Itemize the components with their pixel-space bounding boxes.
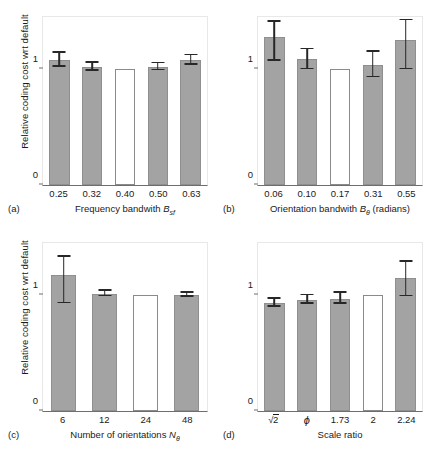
x-axis-label-b: Orientation bandwith Bθ (radians) (255, 203, 425, 216)
y-tick-mark-0 (254, 184, 258, 185)
x-tick-0.32: 0.32 (75, 188, 108, 199)
y-tick-1: 1 (33, 279, 43, 290)
x-tick-√2: √2 (257, 414, 290, 426)
bar-slot (324, 17, 357, 185)
error-bar-0.06 (274, 22, 276, 61)
x-tick-0.40: 0.40 (108, 188, 141, 199)
bar-slot (166, 243, 207, 411)
bar-φ (297, 300, 317, 411)
x-tick-2: 2 (357, 414, 390, 426)
error-cap-top (53, 51, 66, 53)
caption-row-a: (a) Frequency bandwith Bsf (0, 203, 215, 219)
error-cap-bottom (268, 305, 281, 307)
x-tick-0.10: 0.10 (290, 188, 323, 199)
panel-letter-c: (c) (8, 429, 19, 440)
y-tick-mark-1 (254, 294, 258, 295)
bar-slot (43, 17, 76, 185)
bar-12 (92, 294, 117, 411)
x-tick-labels-c: 6122448 (42, 414, 208, 425)
error-cap-top (268, 297, 281, 299)
bar-slot (356, 243, 389, 411)
bar-group-c (43, 243, 207, 411)
x-axis-label-c: Number of orientations Nθ (40, 429, 210, 442)
x-tick-φ: ϕ (290, 414, 323, 426)
plot-area-b: 01 (257, 16, 423, 186)
error-cap-top (151, 62, 164, 64)
y-axis-label-a: Relative coding cost wrt default (19, 2, 30, 162)
error-cap-top (86, 61, 99, 63)
y-tick-mark-0 (39, 184, 43, 185)
x-tick-0.55: 0.55 (390, 188, 423, 199)
error-bar-6 (63, 257, 65, 303)
error-cap-bottom (180, 295, 193, 297)
plot-inner-a: 01 (43, 17, 207, 185)
x-tick-6: 6 (42, 414, 84, 425)
x-tick-0.31: 0.31 (357, 188, 390, 199)
bar-0.25 (49, 60, 69, 185)
error-bar-2.24 (405, 262, 407, 297)
panel-a: Relative coding cost wrt default 01 0.25… (0, 0, 215, 226)
bar-2 (363, 295, 383, 411)
bar-0.50 (148, 67, 168, 185)
bar-24 (133, 295, 158, 411)
bar-slot (389, 243, 422, 411)
caption-row-b: (b) Orientation bandwith Bθ (radians) (215, 203, 430, 219)
caption-row-c: (c) Number of orientations Nθ (0, 429, 215, 445)
bar-slot (291, 17, 324, 185)
bar-slot (389, 17, 422, 185)
error-cap-top (333, 291, 346, 293)
bar-slot (356, 17, 389, 185)
error-cap-bottom (98, 295, 111, 297)
bar-slot (84, 243, 125, 411)
bar-group-b (258, 17, 422, 185)
bar-2.24 (395, 278, 415, 411)
bar-0.40 (115, 69, 135, 185)
error-cap-bottom (151, 69, 164, 71)
error-cap-bottom (366, 76, 379, 78)
x-tick-labels-b: 0.060.100.170.310.55 (257, 188, 423, 199)
error-cap-top (399, 260, 412, 262)
plot-area-d: 01 (257, 242, 423, 412)
error-cap-bottom (333, 302, 346, 304)
y-tick-0: 0 (33, 169, 43, 180)
bar-0.17 (330, 69, 350, 185)
bar-slot (109, 17, 142, 185)
x-axis-label-a: Frequency bandwith Bsf (40, 203, 210, 216)
bar-√2 (264, 303, 284, 411)
x-tick-48: 48 (167, 414, 209, 425)
error-cap-top (366, 50, 379, 52)
y-tick-mark-1 (39, 68, 43, 69)
figure-panels: Relative coding cost wrt default 01 0.25… (0, 0, 431, 453)
caption-row-d: (d) Scale ratio (215, 429, 430, 445)
x-tick-0.17: 0.17 (323, 188, 356, 199)
y-tick-mark-1 (39, 294, 43, 295)
panel-d: 01 √2ϕ1.7322.24 (d) Scale ratio (215, 226, 430, 452)
error-cap-bottom (86, 69, 99, 71)
error-cap-bottom (399, 295, 412, 297)
bar-slot (174, 17, 207, 185)
error-cap-bottom (301, 68, 314, 70)
panel-letter-a: (a) (8, 203, 20, 214)
error-cap-top (268, 20, 281, 22)
bar-0.10 (297, 59, 317, 185)
y-tick-0: 0 (33, 395, 43, 406)
error-cap-top (301, 294, 314, 296)
error-cap-bottom (57, 302, 70, 304)
bar-0.32 (82, 67, 102, 185)
plot-area-c: 01 (42, 242, 208, 412)
y-tick-0: 0 (248, 169, 258, 180)
error-cap-top (98, 289, 111, 291)
bar-slot (76, 17, 109, 185)
panel-letter-d: (d) (223, 429, 235, 440)
bar-48 (174, 295, 199, 411)
y-tick-1: 1 (33, 53, 43, 64)
y-axis-label-c: Relative coding cost wrt default (19, 228, 30, 388)
y-tick-1: 1 (248, 53, 258, 64)
bar-group-a (43, 17, 207, 185)
x-tick-2.24: 2.24 (390, 414, 423, 426)
error-cap-bottom (399, 68, 412, 70)
plot-area-a: 01 (42, 16, 208, 186)
error-cap-top (399, 19, 412, 21)
bar-slot (141, 17, 174, 185)
bar-slot (43, 243, 84, 411)
